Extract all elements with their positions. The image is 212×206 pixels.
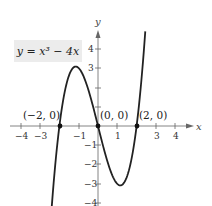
- x-tick-label: 3: [154, 131, 160, 141]
- x-axis-label: x: [196, 121, 202, 132]
- y-tick-label: −4: [84, 198, 98, 206]
- point-label-2: (2, 0): [139, 109, 167, 121]
- y-tick-label: 3: [88, 63, 94, 73]
- point-label-neg2: (−2, 0): [23, 109, 60, 121]
- y-tick-label: −1: [84, 140, 97, 150]
- x-axis: [10, 123, 194, 129]
- y-tick-label: −3: [84, 179, 98, 189]
- point-label-0: (0, 0): [100, 109, 128, 121]
- point-2-0: [135, 124, 140, 129]
- y-axis-arrow-icon: [96, 30, 101, 38]
- y-axis-label: y: [94, 16, 101, 27]
- point-neg2-0: [58, 124, 63, 129]
- y-tick-label: −2: [84, 159, 97, 169]
- y-tick-label: 4: [88, 44, 94, 54]
- x-axis-arrow-icon: [186, 124, 194, 129]
- x-tick-label: 1: [115, 131, 121, 141]
- equation-label: y = x³ − 4x: [14, 40, 82, 62]
- x-tick-label: −3: [34, 131, 48, 141]
- x-tick-label: 4: [173, 131, 179, 141]
- point-0-0: [96, 124, 101, 129]
- x-tick-label: −4: [15, 131, 29, 141]
- cubic-function-graph: x y −4 −3 −1 1 3 4 4 3 −1 −2 −3 −4 (−2, …: [0, 0, 212, 206]
